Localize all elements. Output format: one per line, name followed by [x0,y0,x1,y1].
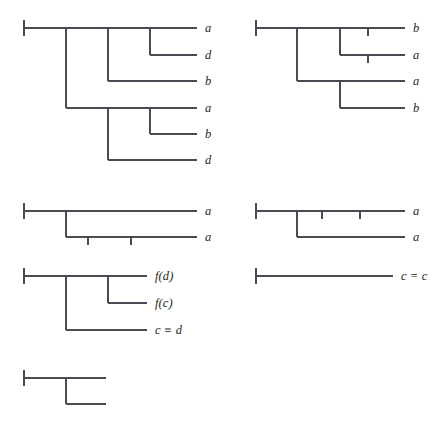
leaf-label-d-1: d [205,49,211,62]
tree-mid-left-svg [0,195,240,255]
leaf-label-a-2: a [413,231,419,244]
leaf-label-b-1: b [413,22,419,35]
figure-canvas: a d b a b d b a a b [0,0,438,436]
tree-top-left-svg [0,0,240,185]
leaf-label-b-1: b [205,75,211,88]
leaf-label-a-2: a [205,231,211,244]
leaf-label-a-1: a [413,205,419,218]
leaf-label-d-2: d [205,154,211,167]
proof-tree-top-right: b a a b [248,0,438,130]
leaf-label-a-2: a [413,75,419,88]
leaf-label-a-1: a [205,22,211,35]
proof-tree-mid-left: a a [0,195,240,255]
leaf-label-c-equiv-d: c ≡ d [155,324,182,337]
tree-mid-right-svg [248,195,438,255]
leaf-label-a-1: a [413,49,419,62]
leaf-label-c-equals-c: c = c [401,270,427,283]
tree-row3-left-svg [0,262,240,342]
leaf-label-b-2: b [205,128,211,141]
proof-tree-row3-left: f(d) f(c) c ≡ d [0,262,240,342]
leaf-label-fd: f(d) [155,270,173,283]
leaf-label-a-1: a [205,205,211,218]
leaf-label-a-2: a [205,102,211,115]
leaf-label-fc: f(c) [155,297,173,310]
proof-tree-bottom-left: a f(c) f(a) [0,362,240,422]
proof-tree-row3-right: c = c [248,262,438,302]
leaf-label-b-2: b [413,102,419,115]
tree-bottom-left-svg [0,362,240,422]
proof-tree-mid-right: a a [248,195,438,255]
tree-top-right-svg [248,0,438,130]
proof-tree-top-left: a d b a b d [0,0,240,185]
